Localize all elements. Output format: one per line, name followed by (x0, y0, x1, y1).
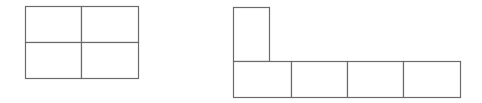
rectangle-2x2-grid-cell-0 (26, 7, 82, 43)
rectangle-2x2-grid-cell-1 (82, 7, 139, 43)
l-shaped-net-cell-1 (234, 62, 292, 98)
l-shaped-net-cell-4 (404, 62, 461, 98)
rectangle-2x2-grid-cell-2 (26, 43, 82, 79)
l-shaped-net-cell-2 (292, 62, 348, 98)
rectangle-2x2-grid (26, 7, 139, 79)
l-shaped-net (234, 8, 461, 98)
diagram-canvas (0, 0, 482, 103)
l-shaped-net-cell-0 (234, 8, 270, 62)
l-shaped-net-cell-3 (348, 62, 404, 98)
rectangle-2x2-grid-cell-3 (82, 43, 139, 79)
